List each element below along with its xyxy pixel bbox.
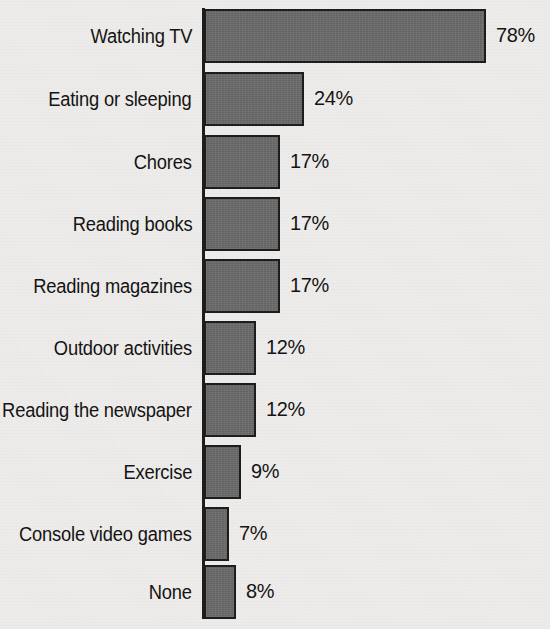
bar-value-label: 17% [290, 134, 329, 188]
bar-category-label: Outdoor activities [54, 320, 192, 376]
bar-value-label: 78% [496, 8, 535, 62]
bar-track [204, 565, 236, 619]
bar-value-label: 17% [290, 196, 329, 250]
bar-track [204, 197, 280, 251]
bar-category-label: Reading magazines [33, 258, 192, 314]
bar-row: Eating or sleeping 24% [0, 71, 550, 127]
bar-row: Reading magazines 17% [0, 258, 550, 314]
bar-value-label: 9% [251, 444, 279, 498]
bar-value-label: 17% [290, 258, 329, 312]
bar-rect [204, 9, 486, 63]
bar-category-label: Exercise [123, 444, 192, 500]
bar-rect [204, 565, 236, 619]
bar-row: Exercise 9% [0, 444, 550, 500]
bar-rect [204, 321, 256, 375]
bar-track [204, 135, 280, 189]
bar-category-label: Chores [134, 134, 192, 190]
bar-value-label: 12% [266, 382, 305, 436]
bar-track [204, 321, 256, 375]
bar-track [204, 507, 229, 561]
bar-value-label: 24% [314, 71, 353, 125]
bar-category-label: Reading the newspaper [2, 382, 192, 438]
bar-track [204, 72, 304, 126]
bar-value-label: 7% [239, 506, 267, 560]
bar-category-label: None [149, 564, 192, 620]
bar-rect [204, 259, 280, 313]
bar-category-label: Console video games [19, 506, 192, 562]
bar-track [204, 9, 486, 63]
bar-rect [204, 72, 304, 126]
bar-row: Outdoor activities 12% [0, 320, 550, 376]
bar-value-label: 12% [266, 320, 305, 374]
bar-row: Chores 17% [0, 134, 550, 190]
bar-value-label: 8% [246, 564, 274, 618]
bar-row: Reading the newspaper 12% [0, 382, 550, 438]
bar-rect [204, 383, 256, 437]
bar-rect [204, 445, 241, 499]
bar-row: None 8% [0, 564, 550, 620]
bar-category-label: Watching TV [90, 8, 192, 64]
bar-row: Console video games 7% [0, 506, 550, 562]
bar-track [204, 383, 256, 437]
bar-track [204, 259, 280, 313]
horizontal-bar-chart: Watching TV 78% Eating or sleeping 24% C… [0, 0, 550, 629]
bar-rect [204, 135, 280, 189]
bar-rect [204, 197, 280, 251]
bar-rect [204, 507, 229, 561]
bar-category-label: Eating or sleeping [49, 71, 192, 127]
bar-row: Reading books 17% [0, 196, 550, 252]
bar-track [204, 445, 241, 499]
bar-category-label: Reading books [72, 196, 192, 252]
bar-row: Watching TV 78% [0, 8, 550, 64]
